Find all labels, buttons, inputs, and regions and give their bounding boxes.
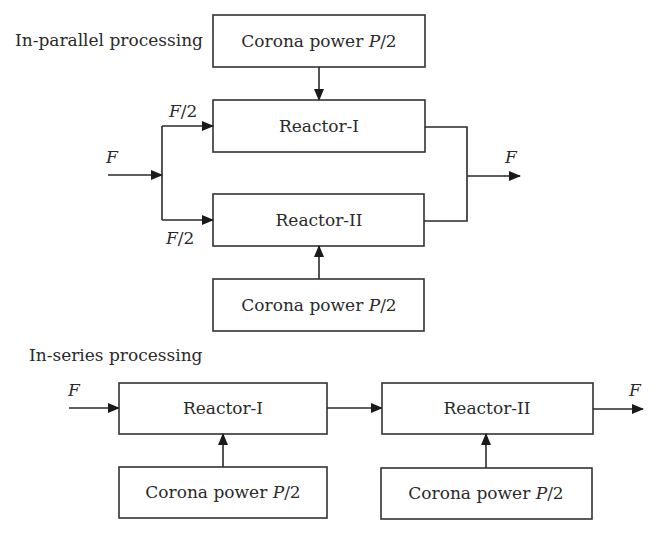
- branch-top-label: F/2: [168, 101, 197, 121]
- series-section: In-series processing F Reactor-I Corona …: [29, 345, 643, 519]
- parallel-reactor-2-box: Reactor-II: [213, 194, 424, 246]
- series-reactor-1-box: Reactor-I: [119, 383, 327, 434]
- reactor-2-label: Reactor-II: [276, 210, 363, 230]
- svg-text:Corona power P/2: Corona power P/2: [408, 483, 563, 503]
- parallel-corona-top-box: Corona power P/2: [213, 15, 425, 67]
- series-corona-1-box: Corona power P/2: [119, 467, 327, 518]
- power-fraction: /2: [547, 483, 564, 503]
- corona-label: Corona power: [241, 31, 368, 51]
- power-variable: P: [368, 295, 381, 315]
- reactor-1-label: Reactor-I: [279, 116, 359, 136]
- parallel-corona-bottom-box: Corona power P/2: [213, 279, 424, 331]
- corona-label: Corona power: [408, 483, 535, 503]
- power-fraction: /2: [380, 31, 397, 51]
- series-reactor-2-box: Reactor-II: [382, 383, 593, 434]
- svg-text:Corona power P/2: Corona power P/2: [241, 295, 396, 315]
- parallel-reactor-1-box: Reactor-I: [213, 100, 425, 152]
- parallel-title: In-parallel processing: [15, 30, 203, 50]
- power-variable: P: [272, 482, 285, 502]
- diagram-canvas: In-parallel processing Corona power P/2 …: [0, 0, 659, 545]
- series-corona-2-box: Corona power P/2: [381, 468, 592, 519]
- branch-bottom-label: F/2: [165, 228, 194, 248]
- svg-text:Corona power P/2: Corona power P/2: [241, 31, 396, 51]
- corona-label: Corona power: [145, 482, 272, 502]
- series-input-label: F: [67, 380, 81, 400]
- power-variable: P: [535, 483, 548, 503]
- svg-text:Corona power P/2: Corona power P/2: [145, 482, 300, 502]
- series-output-label: F: [628, 380, 642, 400]
- feed-input-label: F: [105, 147, 119, 167]
- parallel-section: In-parallel processing Corona power P/2 …: [15, 15, 520, 331]
- power-variable: P: [368, 31, 381, 51]
- output-label: F: [504, 147, 518, 167]
- power-fraction: /2: [284, 482, 301, 502]
- reactor-2-label: Reactor-II: [444, 398, 531, 418]
- merge-line: [424, 127, 467, 221]
- power-fraction: /2: [380, 295, 397, 315]
- reactor-1-label: Reactor-I: [183, 398, 263, 418]
- corona-label: Corona power: [241, 295, 368, 315]
- series-title: In-series processing: [29, 345, 203, 365]
